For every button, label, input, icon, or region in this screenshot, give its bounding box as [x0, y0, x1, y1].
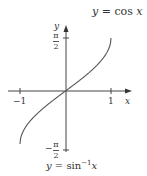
bottom-caption: y = sin−1x	[46, 160, 97, 171]
y-axis-label: y	[54, 22, 59, 31]
x-axis-arrow-icon	[125, 89, 132, 94]
minus-sign: −	[45, 143, 53, 153]
y-tick-label-neg-pi-over-2: π 2	[53, 141, 59, 160]
x-tick-label-pos1: 1	[108, 97, 114, 106]
x-tick-label-neg1: −1	[13, 97, 26, 106]
x-axis-label: x	[125, 97, 130, 106]
plot-area	[0, 0, 147, 176]
top-caption: y = cos x	[92, 6, 143, 17]
y-tick-label-pi-over-2: π 2	[53, 32, 59, 51]
y-axis-arrow-icon	[64, 25, 69, 32]
